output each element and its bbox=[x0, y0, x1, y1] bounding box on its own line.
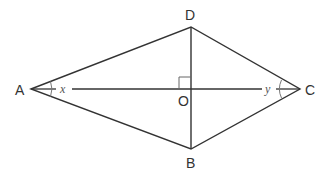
angle-label-x: x bbox=[59, 82, 66, 96]
vertex-label-a: A bbox=[15, 82, 25, 98]
vertex-label-d: D bbox=[185, 7, 195, 23]
vertex-label-o: O bbox=[178, 93, 189, 109]
vertex-label-c: C bbox=[305, 82, 315, 98]
rhombus-diagram: A B C D O x y bbox=[0, 0, 327, 177]
right-angle-marker bbox=[179, 77, 191, 89]
angle-label-y: y bbox=[264, 82, 271, 96]
rhombus-outline bbox=[31, 27, 300, 149]
vertex-label-b: B bbox=[186, 155, 195, 171]
